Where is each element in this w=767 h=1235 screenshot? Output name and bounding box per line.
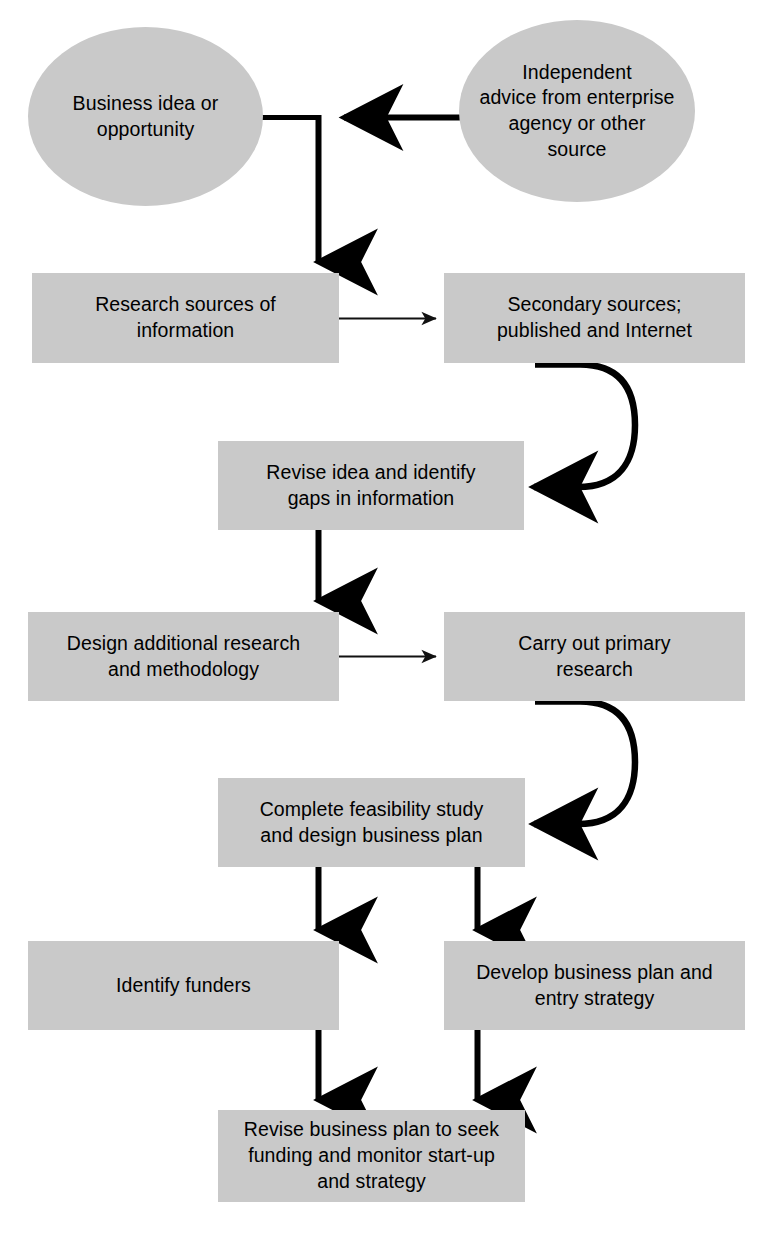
node-research-sources-label: Research sources of information	[95, 292, 276, 343]
node-complete-feasibility-study[interactable]: Complete feasibility study and design bu…	[218, 778, 525, 867]
node-identify-funders[interactable]: Identify funders	[28, 941, 339, 1030]
node-complete-feasibility-study-label: Complete feasibility study and design bu…	[260, 797, 484, 848]
node-independent-advice-label: Independent advice from enterprise agenc…	[479, 60, 674, 163]
node-identify-funders-label: Identify funders	[116, 973, 251, 999]
node-revise-idea-label: Revise idea and identify gaps in informa…	[266, 460, 475, 511]
node-business-idea[interactable]: Business idea or opportunity	[28, 27, 263, 206]
node-carry-out-primary-research[interactable]: Carry out primary research	[444, 612, 745, 701]
flowchart-canvas: Business idea or opportunity Independent…	[0, 0, 767, 1235]
node-design-additional-research-label: Design additional research and methodolo…	[67, 631, 301, 682]
node-revise-business-plan[interactable]: Revise business plan to seek funding and…	[218, 1110, 525, 1202]
node-carry-out-primary-research-label: Carry out primary research	[518, 631, 670, 682]
node-develop-business-plan[interactable]: Develop business plan and entry strategy	[444, 941, 745, 1030]
node-secondary-sources-label: Secondary sources; published and Interne…	[497, 292, 692, 343]
node-secondary-sources[interactable]: Secondary sources; published and Interne…	[444, 273, 745, 363]
node-design-additional-research[interactable]: Design additional research and methodolo…	[28, 612, 339, 701]
node-independent-advice[interactable]: Independent advice from enterprise agenc…	[459, 20, 695, 202]
connector-primary-to-feasibility	[534, 702, 635, 825]
node-develop-business-plan-label: Develop business plan and entry strategy	[476, 960, 713, 1011]
node-business-idea-label: Business idea or opportunity	[73, 91, 219, 142]
node-revise-business-plan-label: Revise business plan to seek funding and…	[244, 1117, 499, 1194]
connector-secondary-to-revise-idea	[534, 365, 635, 488]
node-revise-idea[interactable]: Revise idea and identify gaps in informa…	[218, 441, 524, 530]
node-research-sources[interactable]: Research sources of information	[32, 273, 339, 363]
